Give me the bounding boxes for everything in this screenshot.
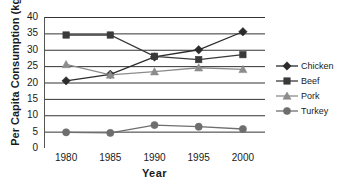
y-axis-tick-label: 25 xyxy=(16,61,38,71)
y-axis-tick-label: 0 xyxy=(16,143,38,153)
legend-label: Turkey xyxy=(301,106,328,116)
data-point-marker xyxy=(62,77,70,85)
y-axis-tick-label: 15 xyxy=(16,94,38,104)
data-point-marker xyxy=(107,129,114,136)
data-point-marker xyxy=(62,60,70,67)
legend-swatch-square-icon xyxy=(276,75,298,87)
data-point-marker xyxy=(283,107,290,114)
legend-swatch-diamond-icon xyxy=(276,60,298,72)
plot-area xyxy=(44,17,265,148)
legend-item-chicken[interactable]: Chicken xyxy=(276,58,342,73)
x-axis-tick-labels: 19801985199019952000 xyxy=(44,152,265,166)
series-pork xyxy=(62,60,247,78)
x-axis-tick-label: 1985 xyxy=(90,152,130,163)
y-axis-tick-labels: 0510152025303540 xyxy=(10,0,38,188)
data-point-marker xyxy=(283,61,291,69)
y-axis-tick-label: 35 xyxy=(16,28,38,38)
y-axis-tick-label: 40 xyxy=(16,12,38,22)
x-axis-tick-label: 2000 xyxy=(223,152,263,163)
legend-label: Pork xyxy=(301,91,320,101)
data-point-marker xyxy=(240,51,246,57)
chart-figure: Per Capita Consumption (kg) 051015202530… xyxy=(0,0,344,188)
data-point-marker xyxy=(196,56,202,62)
chart-canvas xyxy=(44,17,265,148)
y-axis-tick-label: 10 xyxy=(16,110,38,120)
y-axis-tick-label: 5 xyxy=(16,127,38,137)
legend-item-beef[interactable]: Beef xyxy=(276,73,342,88)
x-axis-tick-label: 1980 xyxy=(46,152,86,163)
y-axis-tick-label: 20 xyxy=(16,78,38,88)
series-turkey xyxy=(63,121,247,136)
data-point-marker xyxy=(63,32,69,38)
x-axis-title: Year xyxy=(44,167,265,179)
data-point-marker xyxy=(151,53,157,59)
data-point-marker xyxy=(239,125,246,132)
legend-item-turkey[interactable]: Turkey xyxy=(276,103,342,118)
chart-legend: ChickenBeefPorkTurkey xyxy=(276,58,342,118)
legend-item-pork[interactable]: Pork xyxy=(276,88,342,103)
legend-swatch-circle-icon xyxy=(276,105,298,117)
x-axis-tick-label: 1995 xyxy=(179,152,219,163)
data-point-marker xyxy=(63,129,70,136)
y-axis-tick-label: 30 xyxy=(16,45,38,55)
data-point-marker xyxy=(107,32,113,38)
data-point-marker xyxy=(239,28,247,36)
legend-label: Chicken xyxy=(301,61,334,71)
data-point-marker xyxy=(284,77,290,83)
x-axis-tick-label: 1990 xyxy=(135,152,175,163)
data-point-marker xyxy=(151,121,158,128)
data-point-marker xyxy=(195,46,203,54)
legend-swatch-triangle-icon xyxy=(276,90,298,102)
series-beef xyxy=(63,32,246,63)
data-point-marker xyxy=(195,123,202,130)
legend-label: Beef xyxy=(301,76,320,86)
